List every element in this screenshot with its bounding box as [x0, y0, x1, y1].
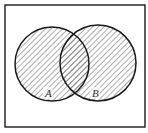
set-a-label: A [44, 87, 52, 99]
venn-diagram: A B [0, 0, 148, 133]
set-b-label: B [92, 87, 99, 99]
